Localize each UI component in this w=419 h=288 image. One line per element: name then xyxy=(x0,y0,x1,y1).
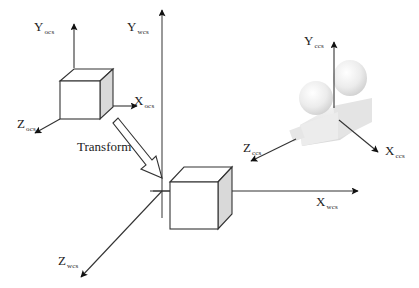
object-z-label: Zocs xyxy=(17,117,36,133)
camera-y-label: Yccs xyxy=(304,34,324,50)
world-z-label: Zwcs xyxy=(58,254,78,270)
object-y-label: Yocs xyxy=(34,20,54,36)
diagram-canvas xyxy=(0,0,419,288)
camera-model xyxy=(289,60,372,146)
world-z-axis xyxy=(81,191,162,277)
world-cube xyxy=(170,167,232,229)
camera-z-label: Zccs xyxy=(243,141,262,157)
object-cube xyxy=(60,69,113,119)
world-x-label: Xwcs xyxy=(316,195,338,211)
world-y-label: Ywcs xyxy=(127,20,149,36)
object-z-axis xyxy=(35,119,60,133)
coordinate-systems-diagram: Yocs Xocs Zocs Ywcs Xwcs Zwcs Yccs Xccs … xyxy=(0,0,419,288)
camera-x-label: Xccs xyxy=(385,144,405,160)
transform-label: Transform xyxy=(77,140,131,153)
object-x-label: Xocs xyxy=(134,94,154,110)
